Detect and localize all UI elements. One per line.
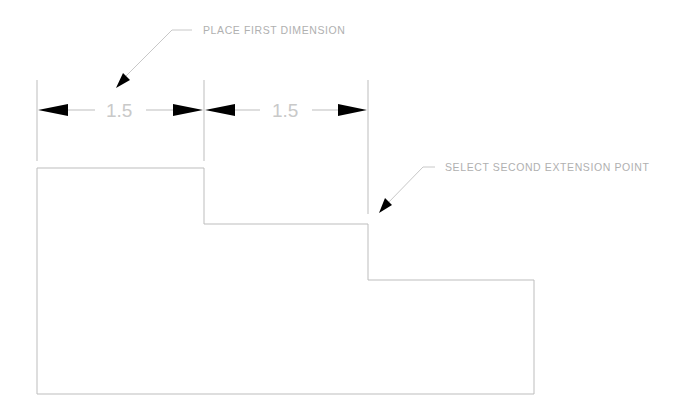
annotation-select-second-extension-point: SELECT SECOND EXTENSION POINT bbox=[445, 161, 650, 173]
leader-place-first-dimension: PLACE FIRST DIMENSION bbox=[116, 24, 346, 88]
stepped-profile-outline bbox=[37, 168, 534, 394]
arrowhead-right-icon bbox=[338, 104, 367, 116]
leader-select-second-extension-point: SELECT SECOND EXTENSION POINT bbox=[379, 161, 650, 213]
arrowhead-left-icon bbox=[38, 104, 68, 116]
arrowhead-right-icon bbox=[173, 104, 203, 116]
dimension-2-label: 1.5 bbox=[272, 100, 298, 121]
cad-drawing-canvas: 1.5 1.5 PLACE FIRST DIMENSION SELECT SEC… bbox=[0, 0, 698, 418]
leader-line-1 bbox=[124, 30, 192, 78]
leader-arrowhead-icon bbox=[116, 73, 130, 88]
dimension-1-label: 1.5 bbox=[106, 100, 132, 121]
dimension-2: 1.5 bbox=[205, 100, 367, 121]
dimension-1: 1.5 bbox=[38, 100, 203, 121]
arrowhead-left-icon bbox=[205, 104, 235, 116]
leader-line-2 bbox=[387, 167, 435, 204]
annotation-place-first-dimension: PLACE FIRST DIMENSION bbox=[203, 24, 346, 36]
